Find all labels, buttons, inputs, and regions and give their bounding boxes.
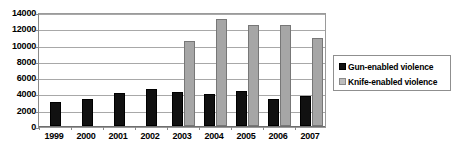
x-tick-mark: [295, 127, 296, 130]
x-tick-mark: [167, 127, 168, 130]
bar-group: [39, 14, 71, 126]
bar-knife-enabled-violence: [280, 25, 291, 126]
bar-group: [103, 14, 135, 126]
bar-group: [295, 14, 327, 126]
x-tick-mark: [103, 127, 104, 130]
y-tick-label: 4000: [0, 90, 36, 99]
bar-group: [167, 14, 199, 126]
y-tick-label: 10000: [0, 41, 36, 50]
x-tick-label: 2006: [268, 131, 287, 142]
bar-chart: 02000400060008000100001200014000 1999200…: [0, 0, 455, 157]
legend-swatch-knife: [339, 78, 346, 85]
bar-knife-enabled-violence: [216, 19, 227, 126]
bar-knife-enabled-violence: [248, 25, 259, 126]
x-tick-mark: [39, 127, 40, 130]
plot-area: [38, 13, 326, 128]
bar-gun-enabled-violence: [114, 93, 125, 126]
bar-gun-enabled-violence: [50, 102, 61, 126]
x-tick-label: 2005: [236, 131, 255, 142]
y-axis: 02000400060008000100001200014000: [0, 9, 36, 128]
bar-group: [135, 14, 167, 126]
legend-entry: Gun-enabled violence: [339, 60, 446, 73]
x-tick-label: 2004: [204, 131, 223, 142]
legend-label: Gun-enabled violence: [348, 62, 433, 72]
legend-swatch-gun: [339, 63, 346, 70]
y-tick-label: 8000: [0, 57, 36, 66]
x-tick-mark: [199, 127, 200, 130]
x-axis-baseline: [39, 126, 325, 127]
y-tick-label: 2000: [0, 106, 36, 115]
x-axis: 199920002001200220032004200520062007: [38, 131, 326, 147]
legend-entry: Knife-enabled violence: [339, 75, 446, 88]
chart-legend: Gun-enabled violenceKnife-enabled violen…: [333, 55, 451, 91]
bar-knife-enabled-violence: [312, 38, 323, 126]
bar-gun-enabled-violence: [204, 94, 215, 126]
x-tick-mark: [135, 127, 136, 130]
x-tick-label: 2007: [300, 131, 319, 142]
y-tick-label: 0: [0, 123, 36, 132]
bar-gun-enabled-violence: [236, 91, 247, 126]
x-tick-label: 1999: [44, 131, 63, 142]
bar-group: [199, 14, 231, 126]
y-tick-label: 14000: [0, 9, 36, 18]
bar-gun-enabled-violence: [146, 89, 157, 126]
bar-gun-enabled-violence: [268, 99, 279, 126]
y-tick-label: 12000: [0, 25, 36, 34]
bar-gun-enabled-violence: [300, 96, 311, 126]
x-tick-label: 2003: [172, 131, 191, 142]
x-tick-mark: [71, 127, 72, 130]
bar-gun-enabled-violence: [172, 92, 183, 126]
x-tick-label: 2000: [76, 131, 95, 142]
bar-gun-enabled-violence: [82, 99, 93, 126]
legend-label: Knife-enabled violence: [348, 77, 437, 87]
bars-layer: [39, 14, 325, 127]
bar-group: [71, 14, 103, 126]
x-tick-mark: [263, 127, 264, 130]
bar-group: [231, 14, 263, 126]
x-tick-label: 2002: [140, 131, 159, 142]
x-tick-mark: [231, 127, 232, 130]
x-tick-label: 2001: [108, 131, 127, 142]
bar-knife-enabled-violence: [184, 41, 195, 126]
bar-group: [263, 14, 295, 126]
y-tick-label: 6000: [0, 74, 36, 83]
